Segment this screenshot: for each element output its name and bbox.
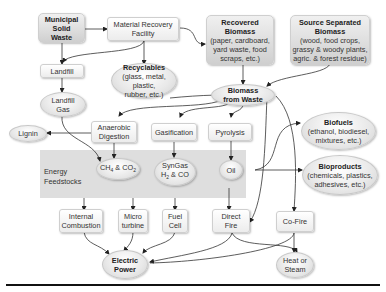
bioproducts-line-1: (chemicals, plastics, bbox=[307, 171, 372, 180]
biofuels-line-2: mixtures, etc.) bbox=[316, 136, 362, 145]
msw-line-3: Waste bbox=[51, 33, 72, 42]
recyclables-title: Recyclables bbox=[123, 63, 165, 72]
recovered-line-3: scraps, etc.) bbox=[220, 54, 260, 63]
biofuels-title: Biofuels bbox=[324, 118, 353, 127]
node-bioproducts: Bioproducts (chemicals, plastics, adhesi… bbox=[302, 155, 378, 195]
landfill-gas-line-1: Landfill bbox=[51, 96, 74, 105]
msw-line-2: Solid bbox=[53, 24, 71, 33]
node-municipal-solid-waste: Municipal Solid Waste bbox=[38, 13, 85, 43]
biofuels-line-1: (ethanol, biodiesel, bbox=[308, 127, 369, 136]
fuelcell-line-1: Fuel bbox=[168, 212, 182, 221]
lignin-line-1: Lignin bbox=[18, 129, 37, 138]
node-oil: Oil bbox=[219, 160, 243, 180]
node-electric-power: Electric Power bbox=[102, 250, 148, 279]
recovered-line-2: yard waste, food bbox=[213, 45, 267, 54]
bfw-line-2: from Waste bbox=[223, 95, 262, 104]
landfill-gas-line-2: Gas bbox=[56, 105, 69, 114]
ch4-label: CH4 & CO2 bbox=[100, 163, 136, 175]
source-line-1: (wood, food crops, bbox=[300, 36, 360, 45]
anaerobic-line-2: Digestion bbox=[99, 132, 129, 141]
electric-line-1: Electric bbox=[112, 256, 138, 265]
source-title: Source Separated bbox=[299, 18, 361, 27]
bioproducts-title: Bioproducts bbox=[319, 162, 362, 171]
node-landfill-gas: Landfill Gas bbox=[40, 92, 86, 117]
node-biofuels: Biofuels (ethanol, biodiesel, mixtures, … bbox=[301, 112, 376, 150]
node-fuel-cell: Fuel Cell bbox=[162, 209, 188, 233]
ice-line-1: Internal bbox=[69, 212, 93, 221]
bfw-line-1: Biomass bbox=[228, 86, 258, 95]
node-internal-combustion: Internal Combustion bbox=[59, 209, 103, 233]
node-syngas: SynGas H2 & CO bbox=[154, 158, 196, 186]
fuelcell-line-2: Cell bbox=[169, 221, 182, 230]
mrf-line-1: Material Recovery bbox=[114, 20, 173, 29]
node-material-recovery-facility: Material Recovery Facility bbox=[107, 17, 179, 41]
direct-line-1: Direct bbox=[221, 212, 240, 221]
micro-line-2: turbine bbox=[122, 221, 144, 230]
recovered-title: Recovered bbox=[221, 18, 258, 27]
node-recovered-biomass: Recovered Biomass (paper, cardboard, yar… bbox=[206, 15, 274, 65]
heat-line-1: Heat or bbox=[283, 256, 307, 265]
mrf-line-2: Facility bbox=[132, 29, 155, 38]
node-co-fire: Co-Fire bbox=[276, 211, 314, 232]
source-line-2: grassy & woody plants, bbox=[292, 45, 367, 54]
syngas-line-1: SynGas bbox=[162, 161, 188, 170]
recovered-title-2: Biomass bbox=[225, 27, 255, 36]
recyclables-line-2: rubber, etc.) bbox=[125, 90, 164, 99]
source-title-2: Biomass bbox=[315, 27, 345, 36]
pyrolysis-line-1: Pyrolysis bbox=[215, 128, 244, 137]
bottom-rule bbox=[6, 284, 380, 286]
anaerobic-line-1: Anaerobic bbox=[98, 123, 131, 132]
node-biomass-from-waste: Biomass from Waste bbox=[211, 84, 275, 106]
node-lignin: Lignin bbox=[9, 125, 47, 142]
direct-line-2: Fire bbox=[225, 221, 238, 230]
node-gasification: Gasification bbox=[151, 123, 197, 141]
node-source-separated-biomass: Source Separated Biomass (wood, food cro… bbox=[290, 15, 370, 65]
node-direct-fire: Direct Fire bbox=[212, 209, 250, 233]
recyclables-line-1: (glass, metal, plastic, bbox=[112, 72, 176, 90]
source-line-3: agric. & forest residue) bbox=[293, 54, 366, 63]
electric-line-2: Power bbox=[114, 265, 136, 274]
bioproducts-line-2: adhesives, etc.) bbox=[314, 180, 365, 189]
cofire-line-1: Co-Fire bbox=[283, 217, 307, 226]
node-recyclables: Recyclables (glass, metal, plastic, rubb… bbox=[111, 63, 177, 98]
node-pyrolysis: Pyrolysis bbox=[208, 123, 252, 141]
recovered-line-1: (paper, cardboard, bbox=[210, 36, 270, 45]
micro-line-1: Micro bbox=[124, 212, 142, 221]
heat-line-2: Steam bbox=[284, 265, 305, 274]
oil-line-1: Oil bbox=[227, 166, 236, 175]
syngas-line-2: H2 & CO bbox=[161, 170, 189, 182]
node-landfill: Landfill bbox=[40, 64, 84, 78]
node-anaerobic-digestion: Anaerobic Digestion bbox=[91, 121, 137, 143]
msw-line-1: Municipal bbox=[45, 15, 79, 24]
gasification-line-1: Gasification bbox=[155, 128, 193, 137]
node-micro-turbine: Micro turbine bbox=[118, 209, 148, 233]
landfill-line-1: Landfill bbox=[50, 67, 73, 76]
ice-line-2: Combustion bbox=[62, 221, 101, 230]
node-heat-or-steam: Heat or Steam bbox=[276, 252, 314, 278]
node-ch4-co2: CH4 & CO2 bbox=[96, 158, 140, 180]
